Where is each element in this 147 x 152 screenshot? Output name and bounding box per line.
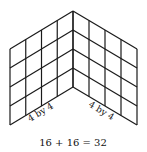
left-grid-label: 4 by 4 [26,101,55,124]
right-grid-label: 4 by 4 [87,99,116,122]
corner-grid-diagram: 4 by 4 4 by 4 16 + 16 = 32 [0,0,147,152]
sum-equation: 16 + 16 = 32 [39,137,107,148]
